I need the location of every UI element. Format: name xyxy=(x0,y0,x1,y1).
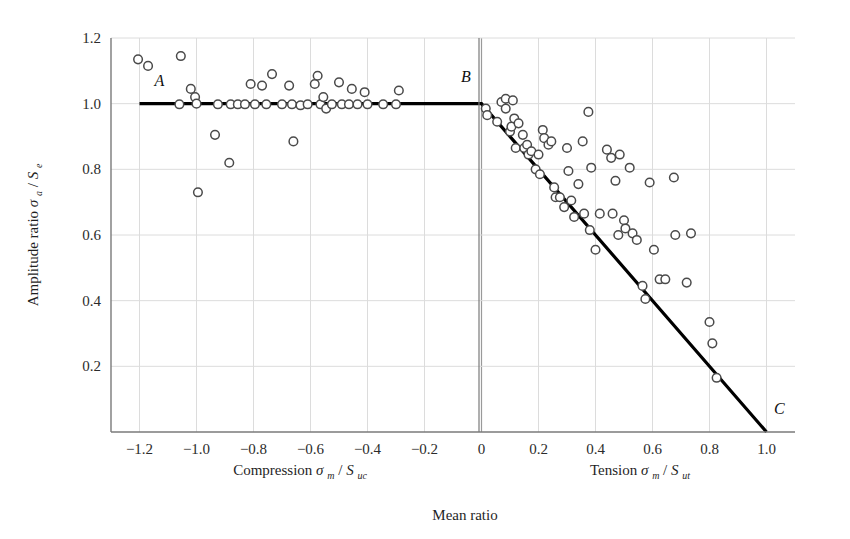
y-axis-title-words: Amplitude ratio xyxy=(25,211,41,306)
tension-sigma: σ xyxy=(641,462,649,478)
data-point xyxy=(608,209,617,218)
data-point xyxy=(360,88,369,97)
data-point xyxy=(580,209,589,218)
compression-sigma-sub: m xyxy=(327,470,334,481)
data-point xyxy=(258,81,267,90)
y-tick-label: 0.6 xyxy=(82,227,101,243)
data-point xyxy=(187,85,196,94)
data-point xyxy=(625,163,634,172)
compression-word: Compression xyxy=(233,462,313,478)
data-point xyxy=(578,137,587,146)
x-tick-label: −1.2 xyxy=(126,441,153,457)
data-point xyxy=(335,78,344,87)
data-point xyxy=(550,183,559,192)
data-point xyxy=(536,170,545,179)
x-tick-label: 0.6 xyxy=(643,441,662,457)
y-axis-sigma: σ xyxy=(25,199,41,207)
data-point xyxy=(641,295,650,304)
data-point xyxy=(595,209,604,218)
x-tick-label: −0.4 xyxy=(354,441,382,457)
data-point xyxy=(556,193,565,202)
data-point xyxy=(547,137,556,146)
data-point xyxy=(194,188,203,197)
data-point xyxy=(192,99,201,108)
data-point xyxy=(564,167,573,176)
y-tick-label: 0.8 xyxy=(82,161,101,177)
data-point xyxy=(177,52,186,61)
data-point xyxy=(614,231,623,240)
node-label-c: C xyxy=(774,400,785,417)
x-axis-master-title: Mean ratio xyxy=(432,507,497,523)
data-point xyxy=(519,131,528,140)
y-axis-s-sub: e xyxy=(33,163,44,168)
data-point xyxy=(509,96,518,105)
data-point xyxy=(289,137,298,146)
data-point xyxy=(563,144,572,153)
data-point xyxy=(310,80,319,89)
y-tick-label: 0.2 xyxy=(82,358,101,374)
data-point xyxy=(645,178,654,187)
x-tick-label: 1.0 xyxy=(757,441,776,457)
data-point xyxy=(493,117,502,126)
data-point xyxy=(567,196,576,205)
y-axis-s: S xyxy=(25,171,41,179)
data-point xyxy=(708,339,717,348)
y-tick-label: 0.4 xyxy=(82,293,101,309)
chart-canvas: −1.2−1.0−0.8−0.6−0.4−0.200.20.40.60.81.0… xyxy=(0,0,850,539)
data-point xyxy=(570,213,579,222)
data-point xyxy=(246,80,255,89)
data-point xyxy=(620,216,629,225)
data-point xyxy=(603,145,612,154)
data-point xyxy=(591,245,600,254)
y-axis-sigma-sub: a xyxy=(33,191,44,196)
data-point xyxy=(534,150,543,159)
data-point xyxy=(288,100,297,109)
data-point xyxy=(483,111,492,120)
data-point xyxy=(687,229,696,238)
data-point xyxy=(650,245,659,254)
fatigue-goodman-diagram: −1.2−1.0−0.8−0.6−0.4−0.200.20.40.60.81.0… xyxy=(0,0,850,539)
data-point xyxy=(586,226,595,235)
x-tick-label: −1.0 xyxy=(183,441,210,457)
data-point xyxy=(211,131,220,140)
data-point xyxy=(670,173,679,182)
compression-sigma: σ xyxy=(316,462,324,478)
compression-s: S xyxy=(346,462,354,478)
data-point xyxy=(225,158,234,167)
x-tick-label: 0.4 xyxy=(586,441,605,457)
x-tick-label: 0 xyxy=(478,441,486,457)
data-point xyxy=(214,100,223,109)
data-point xyxy=(353,100,362,109)
tension-s-sub: ut xyxy=(682,470,690,481)
node-label-b: B xyxy=(461,68,471,85)
data-point xyxy=(607,154,616,163)
data-point xyxy=(587,163,596,172)
data-point xyxy=(712,374,721,383)
y-tick-label: 1.0 xyxy=(82,96,101,112)
x-tick-label: −0.6 xyxy=(297,441,325,457)
data-point xyxy=(313,71,322,80)
data-point xyxy=(348,85,357,94)
data-point xyxy=(144,62,153,71)
data-point xyxy=(501,104,510,113)
data-point xyxy=(395,86,404,95)
data-point xyxy=(278,100,287,109)
data-point xyxy=(241,100,250,109)
data-point xyxy=(379,100,388,109)
data-point xyxy=(363,100,372,109)
y-tick-label: 1.2 xyxy=(82,30,101,46)
data-point xyxy=(345,100,354,109)
data-point xyxy=(611,177,620,186)
data-point xyxy=(262,100,271,109)
data-point xyxy=(175,100,184,109)
data-point xyxy=(268,70,277,79)
data-point xyxy=(584,108,593,117)
x-tick-label: −0.8 xyxy=(240,441,267,457)
data-point xyxy=(615,150,624,159)
data-point xyxy=(134,55,143,64)
data-point xyxy=(560,203,569,212)
data-point xyxy=(633,236,642,245)
data-point xyxy=(661,275,670,284)
data-point xyxy=(574,180,583,189)
data-point xyxy=(392,100,401,109)
